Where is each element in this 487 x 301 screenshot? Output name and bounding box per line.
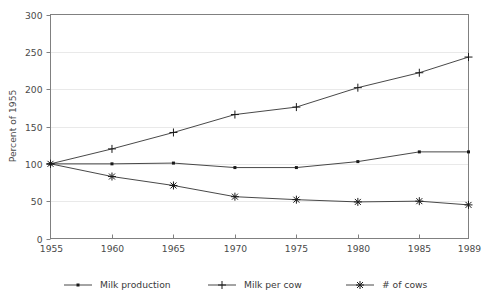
y-tick-label-100: 100 <box>25 159 43 170</box>
legend-label-1: Milk per cow <box>244 279 302 290</box>
y-tick-label-250: 250 <box>25 47 43 58</box>
data-point-marker-dot <box>233 166 236 169</box>
data-point-marker-dot <box>77 284 80 287</box>
x-tick-label-1989: 1989 <box>458 243 482 254</box>
data-point-marker-asterisk <box>356 281 364 289</box>
legend-label-2: # of cows <box>382 279 428 290</box>
y-tick-label-150: 150 <box>25 122 43 133</box>
x-tick-label-1970: 1970 <box>224 243 248 254</box>
legend-item-1: Milk per cow <box>208 279 302 290</box>
data-point-marker-dot <box>418 150 421 153</box>
y-tick-label-200: 200 <box>25 84 43 95</box>
y-tick-label-300: 300 <box>25 10 43 21</box>
data-point-marker-dot <box>356 160 359 163</box>
data-point-marker-asterisk <box>108 173 116 181</box>
x-tick-label-1975: 1975 <box>285 243 309 254</box>
data-point-marker-asterisk <box>415 197 423 205</box>
line-chart: 050100150200250300 195519601965197019751… <box>0 0 487 301</box>
y-tick-label-50: 50 <box>31 196 43 207</box>
data-point-marker-asterisk <box>292 196 300 204</box>
data-point-marker-asterisk <box>47 160 55 168</box>
data-point-marker-dot <box>467 150 470 153</box>
x-tick-label-1985: 1985 <box>408 243 432 254</box>
x-tick-label-1955: 1955 <box>40 243 64 254</box>
x-tick-label-1980: 1980 <box>347 243 371 254</box>
data-point-marker-asterisk <box>231 193 239 201</box>
chart-container: 050100150200250300 195519601965197019751… <box>0 0 487 301</box>
x-tick-label-1960: 1960 <box>101 243 125 254</box>
data-point-marker-asterisk <box>169 181 177 189</box>
chart-background <box>0 0 487 301</box>
data-point-marker-dot <box>110 162 113 165</box>
data-point-marker-asterisk <box>354 198 362 206</box>
data-point-marker-asterisk <box>465 201 473 209</box>
data-point-marker-dot <box>295 166 298 169</box>
x-tick-label-1965: 1965 <box>162 243 186 254</box>
y-axis-title: Percent of 1955 <box>7 90 18 163</box>
data-point-marker-dot <box>172 162 175 165</box>
legend-label-0: Milk production <box>100 279 171 290</box>
